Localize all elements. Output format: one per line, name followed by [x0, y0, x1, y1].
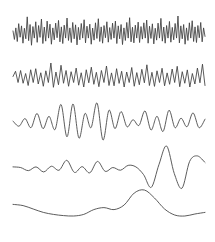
signal-decomposition-figure — [0, 0, 215, 242]
signal-traces-canvas — [0, 0, 215, 242]
